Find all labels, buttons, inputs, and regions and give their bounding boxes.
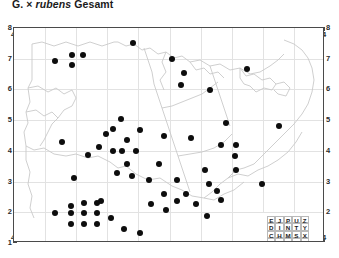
occurrence-dot bbox=[121, 226, 127, 232]
mtb-quadrant-cell-I: I bbox=[275, 223, 283, 230]
map-plot-area: EJPUZDINTYCHMSXBGLRWAFKQV bbox=[14, 28, 323, 241]
mtb-quadrant-cell-U: U bbox=[292, 216, 300, 223]
occurrence-dot bbox=[276, 123, 282, 129]
occurrence-dot bbox=[124, 161, 130, 167]
occurrence-dot bbox=[85, 152, 91, 158]
occurrence-dot bbox=[124, 137, 130, 143]
occurrence-dot bbox=[80, 52, 86, 58]
occurrence-dot bbox=[81, 210, 87, 216]
y-axis-tick-right-2: 6 bbox=[326, 84, 335, 93]
occurrence-dot bbox=[218, 197, 224, 203]
occurrence-dot bbox=[161, 191, 167, 197]
occurrence-dot bbox=[69, 62, 75, 68]
occurrence-dot bbox=[178, 82, 184, 88]
mtb-quadrant-cell-X: X bbox=[301, 231, 309, 238]
mtb-quadrant-cell-H: H bbox=[275, 231, 283, 238]
mtb-quadrant-cell-C: C bbox=[267, 231, 275, 238]
y-axis-tick-right-4: 4 bbox=[326, 146, 335, 155]
y-axis-tick-left-7: 1 bbox=[3, 238, 12, 247]
x-tick-mark-bottom-10 bbox=[324, 238, 325, 242]
occurrence-dot bbox=[163, 207, 169, 213]
occurrence-dot bbox=[110, 126, 116, 132]
occurrence-dot bbox=[169, 56, 175, 62]
occurrence-dot bbox=[181, 70, 187, 76]
occurrence-dot bbox=[137, 127, 143, 133]
occurrence-dot bbox=[174, 177, 180, 183]
occurrence-dot bbox=[202, 167, 208, 173]
y-axis-tick-left-2: 6 bbox=[3, 84, 12, 93]
mtb-quadrant-cell-Z: Z bbox=[301, 216, 309, 223]
title-hybrid-sign: × bbox=[26, 0, 32, 10]
occurrence-dot bbox=[156, 161, 162, 167]
occurrence-dot bbox=[52, 58, 58, 64]
occurrence-dot bbox=[96, 144, 102, 150]
y-axis-tick-left-0: 8 bbox=[3, 23, 12, 32]
occurrence-dot bbox=[59, 139, 65, 145]
occurrence-dot bbox=[68, 203, 74, 209]
occurrence-dot bbox=[232, 153, 238, 159]
occurrence-dot bbox=[259, 181, 265, 187]
occurrence-dot bbox=[119, 148, 125, 154]
occurrence-dot bbox=[133, 148, 139, 154]
y-axis-tick-left-3: 5 bbox=[3, 115, 12, 124]
mtb-quadrant-cell-R: R bbox=[292, 238, 300, 241]
y-axis-tick-left-6: 2 bbox=[3, 207, 12, 216]
mtb-quadrant-cell-S: S bbox=[292, 231, 300, 238]
y-axis-tick-right-5: 3 bbox=[326, 177, 335, 186]
distribution-map-page: G. × rubens Gesamt 456789012344567890123… bbox=[0, 0, 339, 258]
y-tick-mark-left-7 bbox=[13, 242, 17, 243]
mtb-quadrant-cell-N: N bbox=[284, 223, 292, 230]
title-epithet: rubens bbox=[36, 0, 72, 10]
y-axis-tick-right-6: 2 bbox=[326, 207, 335, 216]
mtb-quadrant-cell-Y: Y bbox=[301, 223, 309, 230]
occurrence-dot bbox=[218, 142, 224, 148]
occurrence-dot bbox=[68, 221, 74, 227]
occurrence-dot bbox=[94, 200, 100, 206]
mtb-quadrant-cell-M: M bbox=[284, 231, 292, 238]
occurrence-dot bbox=[193, 201, 199, 207]
title-genus: G. bbox=[12, 0, 23, 10]
occurrence-dot bbox=[148, 201, 154, 207]
occurrence-dot bbox=[68, 210, 74, 216]
y-axis-tick-left-5: 3 bbox=[3, 177, 12, 186]
occurrence-dot bbox=[114, 170, 120, 176]
y-axis-tick-left-1: 7 bbox=[3, 54, 12, 63]
occurrence-dot bbox=[71, 175, 77, 181]
mtb-quadrant-grid: EJPUZDINTYCHMSXBGLRWAFKQV bbox=[267, 216, 309, 241]
occurrence-dot bbox=[206, 181, 212, 187]
occurrence-dot bbox=[130, 40, 136, 46]
occurrence-dot bbox=[161, 133, 167, 139]
mtb-quadrant-legend: EJPUZDINTYCHMSXBGLRWAFKQV bbox=[255, 213, 322, 241]
mtb-quadrant-cell-T: T bbox=[292, 223, 300, 230]
occurrence-dot bbox=[69, 52, 75, 58]
occurrence-dot bbox=[81, 221, 87, 227]
page-title: G. × rubens Gesamt bbox=[12, 0, 113, 12]
occurrence-dot bbox=[146, 177, 152, 183]
occurrence-dot bbox=[183, 191, 189, 197]
occurrence-dot bbox=[110, 148, 116, 154]
occurrence-dot bbox=[188, 135, 194, 141]
occurrence-dot bbox=[204, 213, 210, 219]
title-suffix: Gesamt bbox=[74, 0, 113, 10]
y-axis-tick-left-4: 4 bbox=[3, 146, 12, 155]
occurrence-dot bbox=[244, 66, 250, 72]
occurrence-dot bbox=[103, 131, 109, 137]
occurrence-dot bbox=[174, 198, 180, 204]
mtb-quadrant-cell-E: E bbox=[267, 216, 275, 223]
mtb-quadrant-cell-G: G bbox=[275, 238, 283, 241]
occurrence-dot bbox=[207, 87, 213, 93]
occurrence-dot bbox=[52, 210, 58, 216]
mtb-quadrant-cell-D: D bbox=[267, 223, 275, 230]
y-axis-tick-right-0: 8 bbox=[326, 23, 335, 32]
mtb-quadrant-cell-L: L bbox=[284, 238, 292, 241]
occurrence-dot bbox=[81, 200, 87, 206]
occurrence-dot bbox=[118, 116, 124, 122]
occurrence-dot bbox=[108, 215, 114, 221]
occurrence-dot bbox=[94, 221, 100, 227]
occurrence-dot bbox=[214, 188, 220, 194]
mtb-quadrant-cell-P: P bbox=[284, 216, 292, 223]
x-tick-mark-top-10 bbox=[324, 27, 325, 31]
occurrence-dot bbox=[233, 142, 239, 148]
map-frame: EJPUZDINTYCHMSXBGLRWAFKQV bbox=[13, 27, 324, 242]
mtb-quadrant-cell-W: W bbox=[301, 238, 309, 241]
